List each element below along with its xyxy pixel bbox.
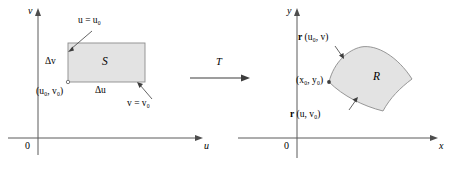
r-u0-v-arguments: (u₀, v) bbox=[305, 32, 329, 42]
xy-corner-point-label: (x₀, y₀) bbox=[296, 76, 323, 86]
region-s-label: S bbox=[102, 56, 108, 68]
xy-corner-point-dot bbox=[327, 80, 331, 84]
y-axis-label: y bbox=[287, 6, 291, 16]
xy-plane-panel: y x 0 R (x₀, y₀) r (u₀, v) r (u, v₀) bbox=[230, 0, 459, 173]
x-axis-arrowhead bbox=[430, 135, 438, 141]
uv-origin-label: 0 bbox=[25, 141, 30, 151]
u-equals-u0-label: u = u₀ bbox=[78, 16, 101, 26]
uv-corner-point-dot bbox=[66, 80, 69, 83]
r-u-v0-arguments: (u, v₀) bbox=[297, 109, 321, 119]
u-axis-label: u bbox=[204, 141, 209, 151]
change-of-variables-figure: v u 0 S u = u₀ v = v₀ Δv Δu (u₀, v₀) T bbox=[0, 0, 459, 173]
u-axis-arrowhead bbox=[195, 135, 203, 141]
r-u-v0-leader-line bbox=[349, 100, 356, 110]
region-r-label: R bbox=[373, 71, 380, 83]
delta-v-label: Δv bbox=[45, 57, 56, 67]
v-equals-v0-label: v = v₀ bbox=[127, 99, 150, 109]
r-u0-v-label: r (u₀, v) bbox=[298, 33, 328, 43]
v-axis-arrowhead bbox=[35, 8, 41, 16]
xy-plane-graphics bbox=[230, 0, 459, 173]
transform-label: T bbox=[216, 57, 222, 68]
v-equals-v0-leader-line bbox=[140, 85, 152, 99]
delta-u-label: Δu bbox=[95, 86, 106, 96]
r-u-v0-label: r (u, v₀) bbox=[290, 110, 320, 120]
uv-corner-point-label: (u₀, v₀) bbox=[36, 87, 63, 97]
xy-origin-label: 0 bbox=[284, 141, 289, 151]
x-axis-label: x bbox=[439, 141, 443, 151]
v-axis-label: v bbox=[28, 6, 32, 16]
y-axis-arrowhead bbox=[294, 8, 300, 16]
